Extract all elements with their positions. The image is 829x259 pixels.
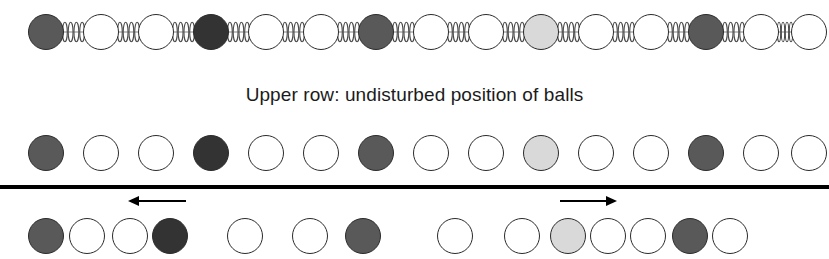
ball xyxy=(630,218,666,254)
ball xyxy=(345,218,381,254)
ball xyxy=(550,218,586,254)
displacement-arrow-right xyxy=(558,194,619,208)
ball xyxy=(69,218,105,254)
ball xyxy=(112,218,148,254)
ball xyxy=(504,218,540,254)
ball xyxy=(152,218,188,254)
ball xyxy=(712,218,748,254)
ball xyxy=(437,218,473,254)
displacement-arrow-left xyxy=(126,194,188,208)
ball xyxy=(590,218,626,254)
ball xyxy=(227,218,263,254)
ball xyxy=(28,218,64,254)
ball-spring-wave-figure: Upper row: undisturbed position of balls xyxy=(0,0,829,259)
disturbed-row xyxy=(0,0,829,259)
ball xyxy=(672,218,708,254)
ball xyxy=(292,218,328,254)
